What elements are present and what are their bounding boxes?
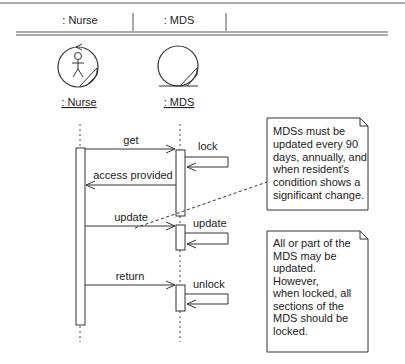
- message-update-self-arrow[interactable]: [185, 233, 228, 244]
- message-return-label: return: [116, 270, 145, 282]
- header-nurse: : Nurse: [62, 14, 97, 26]
- message-lock-self-arrow[interactable]: [185, 157, 228, 167]
- note-line: MDS should be: [273, 312, 348, 324]
- nurse-activation-bar: [76, 148, 85, 325]
- note-line: updated every 90: [273, 138, 358, 150]
- note-line: MDSs must be: [273, 125, 345, 137]
- message-get-label: get: [123, 134, 138, 146]
- note-line: updated.: [273, 262, 316, 274]
- note-line: However,: [273, 275, 319, 287]
- note-line: sections of the: [273, 300, 344, 312]
- nurse-object-label: : Nurse: [61, 96, 96, 108]
- mds-object-label: : MDS: [164, 96, 195, 108]
- header-mds: : MDS: [164, 14, 195, 26]
- note-line: MDS may be: [273, 250, 337, 262]
- message-access-provided-label: access provided: [93, 169, 173, 181]
- header-row: : Nurse : MDS: [16, 13, 388, 35]
- note-locking-rule[interactable]: All or part of the MDS may be updated. H…: [267, 231, 368, 352]
- sequence-diagram: : Nurse : MDS : Nurse : MDS get lock: [0, 0, 405, 364]
- message-unlock-self-arrow[interactable]: [185, 294, 228, 304]
- mds-activation-bar: [176, 225, 185, 250]
- message-unlock-label: unlock: [193, 278, 225, 290]
- message-lock-label: lock: [198, 140, 218, 152]
- note-line: locked.: [273, 325, 308, 337]
- note-line: when locked, all: [272, 287, 351, 299]
- note-line: significant change.: [273, 189, 364, 201]
- mds-activation-bar: [176, 285, 185, 311]
- note-update-frequency[interactable]: MDSs must be updated every 90 days, annu…: [267, 118, 368, 210]
- note-line: condition shows a: [273, 176, 361, 188]
- note-line: when resident's: [272, 163, 350, 175]
- note-line: All or part of the: [273, 237, 351, 249]
- mds-activation-bar: [176, 150, 185, 216]
- note-line: days, annually, and: [273, 151, 367, 163]
- nurse-control-actor-icon[interactable]: [58, 44, 98, 87]
- message-update-label: update: [114, 211, 148, 223]
- mds-entity-icon[interactable]: [158, 46, 198, 86]
- message-update-self-label: update: [193, 217, 227, 229]
